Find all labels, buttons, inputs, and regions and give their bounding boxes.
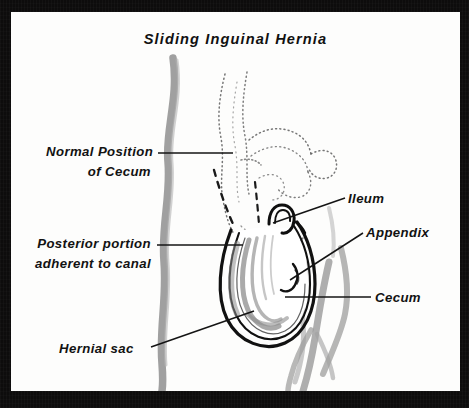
normal-position-of-cecum-outline xyxy=(219,72,337,252)
descent-path-dashed xyxy=(214,170,259,224)
label-hernial-sac: Hernial sac xyxy=(59,339,134,358)
anatomy-diagram xyxy=(11,12,460,391)
label-ileum: Ileum xyxy=(348,189,384,208)
label-normal-position-of-cecum: Normal Position of Cecum xyxy=(46,142,151,182)
label-appendix: Appendix xyxy=(366,223,429,242)
label-posterior-portion-adherent-to-canal: Posterior portion adherent to canal xyxy=(25,234,151,274)
body-contour-shading xyxy=(161,58,347,391)
label-cecum: Cecum xyxy=(375,288,421,307)
illustration-page: Sliding Inguinal Hernia xyxy=(11,12,460,391)
photo-frame: Sliding Inguinal Hernia xyxy=(0,0,469,408)
